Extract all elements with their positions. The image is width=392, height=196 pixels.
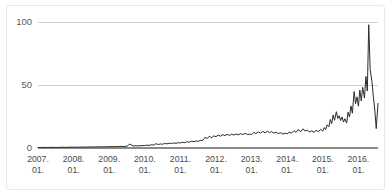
y-axis-tick-labels: 050100	[16, 16, 32, 153]
line-chart-plot: 050100 2007.01.2008.01.2009.01.2010.01.2…	[0, 0, 392, 196]
x-tick-month-2: 01.	[103, 165, 115, 175]
x-tick-year-9: 2016.	[348, 154, 370, 164]
x-tick-year-7: 2014.	[276, 154, 298, 164]
x-tick-year-6: 2013.	[241, 154, 263, 164]
x-tick-month-0: 01.	[32, 165, 44, 175]
data-series-group	[38, 25, 378, 148]
gridlines-group	[38, 22, 378, 148]
x-tick-year-0: 2007.	[27, 154, 49, 164]
x-tick-year-5: 2012.	[205, 154, 227, 164]
x-tick-year-4: 2011.	[170, 154, 191, 164]
x-tick-month-3: 01.	[139, 165, 151, 175]
y-tick-label-0: 0	[27, 142, 32, 153]
x-tick-month-1: 01.	[68, 165, 80, 175]
trends-chart-card: 050100 2007.01.2008.01.2009.01.2010.01.2…	[0, 0, 392, 196]
y-tick-label-50: 50	[21, 79, 32, 90]
x-tick-year-2: 2009.	[98, 154, 120, 164]
x-tick-month-7: 01.	[281, 165, 293, 175]
x-tick-month-9: 01.	[352, 165, 364, 175]
x-tick-month-6: 01.	[246, 165, 258, 175]
x-tick-year-8: 2015.	[312, 154, 334, 164]
x-tick-year-1: 2008.	[63, 154, 85, 164]
x-tick-month-5: 01.	[210, 165, 222, 175]
y-tick-label-100: 100	[16, 16, 32, 27]
x-tick-year-3: 2010.	[134, 154, 156, 164]
x-tick-month-4: 01.	[174, 165, 186, 175]
x-tick-month-8: 01.	[317, 165, 329, 175]
series-line-0	[38, 25, 378, 148]
x-axis-tick-labels: 2007.01.2008.01.2009.01.2010.01.2011.01.…	[27, 154, 369, 175]
